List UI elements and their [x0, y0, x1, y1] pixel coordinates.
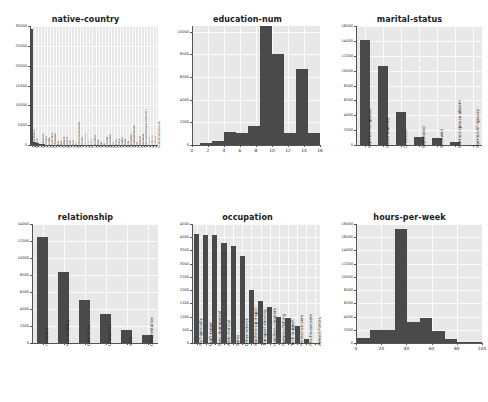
gridline-vertical [224, 26, 225, 145]
histogram-bar [470, 342, 482, 343]
x-axis-tick-mark [315, 343, 316, 345]
y-axis-tick-label: 5000 [5, 123, 27, 127]
gridline-horizontal [32, 275, 158, 276]
histogram-bar [432, 331, 444, 343]
gridline-vertical [47, 26, 48, 145]
gridline-vertical [41, 26, 42, 145]
x-axis-tick-mark [306, 343, 307, 345]
x-axis-tick-mark [102, 145, 103, 147]
panel-title-marital-status: marital-status [332, 14, 487, 26]
x-axis-tick-mark [381, 343, 382, 345]
gridline-vertical [89, 26, 90, 145]
histogram-bar [236, 133, 248, 145]
y-axis-tick-label: 3500 [167, 248, 189, 252]
gridline-horizontal [356, 224, 482, 225]
x-axis-tick-mark [108, 145, 109, 147]
y-axis-line [32, 224, 33, 343]
y-axis-tick-label: 0 [331, 341, 353, 345]
x-axis-tick-mark [41, 145, 42, 147]
x-axis-tick-mark [141, 145, 142, 147]
y-axis-tick-label: 14000 [331, 248, 353, 252]
y-axis-tick-label: 4000 [7, 307, 29, 311]
gridline-vertical [111, 26, 112, 145]
y-axis-tick-label: 25000 [5, 44, 27, 48]
histogram-bar [457, 342, 469, 343]
gridline-vertical [240, 26, 241, 145]
x-axis-tick-mark [32, 145, 33, 147]
gridline-vertical [86, 26, 87, 145]
x-axis-tick-mark [44, 145, 45, 147]
gridline-horizontal [32, 292, 158, 293]
histogram-bar [357, 338, 369, 343]
y-axis-tick-label: 8000 [7, 273, 29, 277]
x-axis-tick-mark [50, 145, 51, 147]
x-axis-tick-mark [65, 145, 66, 147]
gridline-horizontal [192, 290, 320, 291]
y-axis-tick-label: 2000 [7, 324, 29, 328]
gridline-vertical [127, 224, 128, 343]
x-axis-tick-mark [150, 145, 151, 147]
x-axis-tick-label: Priv-house-serv [308, 314, 313, 346]
histogram-bar [248, 126, 260, 145]
y-axis-tick-label: 8000 [331, 84, 353, 88]
x-axis-tick-label: 8 [255, 148, 258, 153]
x-axis-tick-mark [105, 145, 106, 147]
x-axis-tick-mark [365, 145, 366, 147]
y-axis-tick-label: 2000 [331, 328, 353, 332]
panel-occupation: occupation 05001000150020002500300035004… [170, 212, 325, 398]
y-axis-tick-label: 4500 [167, 222, 189, 226]
histogram-bar [296, 69, 308, 146]
y-axis-line [192, 224, 193, 343]
gridline-horizontal [32, 326, 158, 327]
x-axis-tick-mark [127, 343, 128, 345]
gridline-horizontal [356, 264, 482, 265]
x-axis-tick-mark [153, 145, 154, 147]
y-axis-tick-label: 10000 [331, 69, 353, 73]
y-axis-tick-label: 6000 [167, 75, 189, 79]
y-axis-tick-label: 10000 [7, 256, 29, 260]
x-axis-tick-label: Wife [128, 337, 133, 346]
x-axis-tick-mark [208, 145, 209, 147]
x-axis-tick-mark [43, 343, 44, 345]
x-axis-tick-label: 40 [404, 346, 410, 351]
panel-marital-status: marital-status 0200040006000800010000120… [332, 14, 487, 200]
x-axis-tick-label: Married-AF-spouse [475, 109, 480, 148]
gridline-vertical [153, 26, 154, 145]
x-axis-tick-mark [47, 145, 48, 147]
gridline-horizontal [356, 277, 482, 278]
gridline-vertical [38, 26, 39, 145]
x-axis-tick-mark [242, 343, 243, 345]
x-axis-tick-mark [138, 145, 139, 147]
histogram-bar [284, 133, 296, 145]
gridline-horizontal [32, 309, 158, 310]
gridline-horizontal [192, 250, 320, 251]
x-axis-tick-mark [132, 145, 133, 147]
y-axis-tick-label: 0 [167, 341, 189, 345]
gridline-vertical [437, 26, 438, 145]
histogram-bar [382, 330, 394, 343]
x-axis-tick-mark [62, 145, 63, 147]
x-axis-tick-mark [197, 343, 198, 345]
x-axis-tick-mark [85, 343, 86, 345]
gridline-vertical [117, 26, 118, 145]
gridline-vertical [56, 26, 57, 145]
x-axis-tick-label: Widowed [439, 129, 444, 148]
y-axis-tick-label: 500 [167, 328, 189, 332]
gridline-vertical [50, 26, 51, 145]
gridline-vertical [74, 26, 75, 145]
x-axis-tick-label: 16 [317, 148, 323, 153]
panel-title-relationship: relationship [8, 212, 163, 224]
gridline-vertical [96, 26, 97, 145]
x-axis-tick-mark [106, 343, 107, 345]
x-axis-tick-label: Never-married [385, 118, 390, 148]
x-axis-line [356, 343, 482, 344]
x-axis-tick-mark [401, 145, 402, 147]
plot-area-relationship: 02000400060008000100001200014000HusbandN… [32, 224, 158, 343]
x-axis-tick-mark [74, 145, 75, 147]
x-axis-tick-label: 2 [207, 148, 210, 153]
x-axis-tick-mark [92, 145, 93, 147]
y-axis-tick-label: 1000 [167, 315, 189, 319]
plot-area-occupation: 050010001500200025003000350040004500Prof… [192, 224, 320, 343]
x-axis-tick-label: 10 [269, 148, 275, 153]
panel-title-native-country: native-country [8, 14, 163, 26]
